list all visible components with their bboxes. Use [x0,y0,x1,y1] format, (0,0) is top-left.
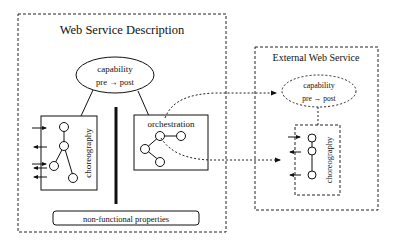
orchestration-box: orchestration [134,115,208,170]
external-web-service-panel: External Web Service capability pre → po… [255,47,378,210]
choreo-node [50,162,59,171]
capability-label: capability [97,64,133,74]
choreography-box: choreography [32,116,97,190]
non-functional-label: non-functional properties [83,214,169,224]
diagram-canvas: Web Service Description capability pre →… [0,0,398,243]
orchestration-to-external-capability-arrow [165,93,276,118]
capability-to-orchestration-line [138,91,149,116]
choreo-node [60,123,69,132]
external-capability-node: capability pre → post [282,75,356,107]
orchestration-label: orchestration [148,119,195,129]
non-functional-properties-box: non-functional properties [53,211,199,225]
external-capability-label: capability [303,81,335,90]
external-choreo-node [308,134,316,142]
choreo-node [60,142,69,151]
choreo-node [69,174,78,183]
external-choreo-node [308,147,316,155]
choreography-label: choreography [83,128,93,178]
orch-node [177,132,186,141]
external-choreography-label: choreography [324,136,334,183]
external-capability-sublabel: pre → post [302,94,336,103]
external-choreo-node [308,171,316,179]
orch-node [141,145,150,154]
web-service-description-title: Web Service Description [60,23,185,37]
orch-node [156,132,165,141]
web-service-description-panel: Web Service Description capability pre →… [18,14,226,232]
orch-node [156,158,165,167]
capability-node: capability pre → post [76,57,154,93]
external-web-service-title: External Web Service [273,52,360,63]
capability-sublabel: pre → post [96,77,134,87]
capability-to-choreography-line [81,90,93,116]
external-choreography-box: choreography [288,125,340,195]
